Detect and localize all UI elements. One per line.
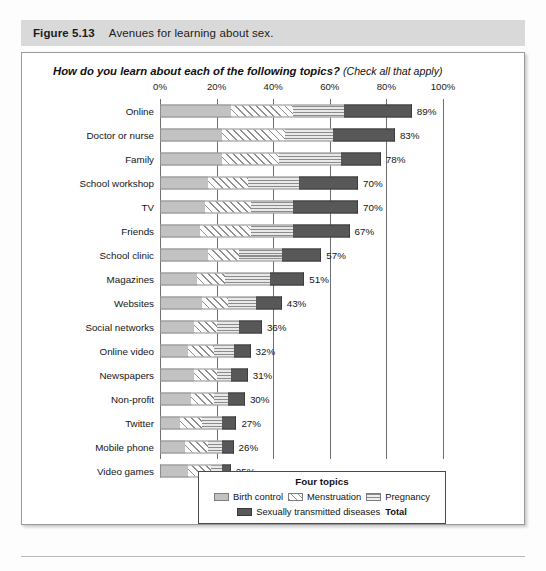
bar-segment-birth-control bbox=[160, 129, 222, 142]
legend-item-std: Sexually transmitted diseases bbox=[237, 505, 380, 518]
category-label-school-workshop: School workshop bbox=[79, 178, 154, 189]
figure-number: Figure 5.13 bbox=[33, 27, 95, 39]
bar-segment-menstruation bbox=[208, 249, 239, 262]
x-tick-0: 0% bbox=[153, 81, 167, 92]
category-label-doctor-or-nurse: Doctor or nurse bbox=[86, 130, 154, 141]
bar-segment-menstruation bbox=[185, 441, 208, 454]
x-tick-40: 40% bbox=[264, 81, 283, 92]
bar-row: Online video32% bbox=[160, 339, 443, 363]
bar-row: Family78% bbox=[160, 147, 443, 171]
stacked-bar bbox=[160, 105, 412, 118]
bar-row: Social networks36% bbox=[160, 315, 443, 339]
bar-segment-menstruation bbox=[191, 393, 214, 406]
bar-segment-pregnancy bbox=[248, 177, 299, 190]
bar-segment-menstruation bbox=[194, 369, 217, 382]
bar-segment-menstruation bbox=[200, 225, 251, 238]
bar-segment-pregnancy bbox=[214, 345, 234, 358]
stacked-bar bbox=[160, 321, 262, 334]
bar-segment-pregnancy bbox=[228, 297, 256, 310]
legend-item-pregnancy: Pregnancy bbox=[366, 490, 430, 503]
stacked-bar bbox=[160, 273, 304, 286]
bar-segment-menstruation bbox=[231, 105, 293, 118]
bar-segment-menstruation bbox=[222, 153, 279, 166]
bar-value-label: 43% bbox=[287, 298, 307, 309]
bar-segment-birth-control bbox=[160, 393, 191, 406]
stacked-bar bbox=[160, 129, 395, 142]
bar-segment-menstruation bbox=[222, 129, 284, 142]
category-label-mobile-phone: Mobile phone bbox=[95, 442, 154, 453]
stacked-bar bbox=[160, 177, 358, 190]
x-tick-20: 20% bbox=[207, 81, 226, 92]
bar-segment-birth-control bbox=[160, 297, 202, 310]
bar-segment-sexually-transmitted-diseases bbox=[231, 369, 248, 382]
bar-segment-sexually-transmitted-diseases bbox=[256, 297, 281, 310]
figure-page: Figure 5.13 Avenues for learning about s… bbox=[0, 0, 546, 571]
bar-segment-pregnancy bbox=[285, 129, 333, 142]
legend-title: Four topics bbox=[206, 476, 438, 487]
bar-segment-birth-control bbox=[160, 177, 208, 190]
legend-item-birth-control: Birth control bbox=[214, 490, 283, 503]
page-bottom-rule bbox=[21, 556, 525, 557]
bar-value-label: 70% bbox=[363, 202, 383, 213]
figure-caption-text: Avenues for learning about sex. bbox=[109, 27, 274, 39]
bar-segment-sexually-transmitted-diseases bbox=[222, 417, 236, 430]
x-axis-tick-labels: 0%20%40%60%80%100% bbox=[160, 81, 443, 95]
category-label-websites: Websites bbox=[114, 298, 154, 309]
bar-segment-menstruation bbox=[180, 417, 203, 430]
bar-segment-sexually-transmitted-diseases bbox=[333, 129, 395, 142]
bar-segment-menstruation bbox=[188, 345, 213, 358]
bar-value-label: 70% bbox=[363, 178, 383, 189]
bar-value-label: 78% bbox=[386, 154, 406, 165]
bar-value-label: 83% bbox=[400, 130, 420, 141]
stacked-bar bbox=[160, 345, 251, 358]
bar-segment-birth-control bbox=[160, 321, 194, 334]
chart-frame: How do you learn about each of the follo… bbox=[21, 52, 525, 525]
chart-title-sub: (Check all that apply) bbox=[343, 65, 443, 77]
bar-row: Magazines51% bbox=[160, 267, 443, 291]
bar-segment-birth-control bbox=[160, 417, 180, 430]
bar-segment-sexually-transmitted-diseases bbox=[270, 273, 304, 286]
bar-segment-sexually-transmitted-diseases bbox=[344, 105, 412, 118]
bar-segment-birth-control bbox=[160, 153, 222, 166]
chart-title-main: How do you learn about each of the follo… bbox=[53, 65, 340, 77]
x-tick-80: 80% bbox=[377, 81, 396, 92]
category-label-online-video: Online video bbox=[100, 346, 154, 357]
category-label-magazines: Magazines bbox=[107, 274, 154, 285]
legend-item-total: Total bbox=[385, 505, 407, 518]
legend-label-pregnancy: Pregnancy bbox=[385, 490, 430, 503]
bar-value-label: 89% bbox=[417, 106, 437, 117]
bar-segment-menstruation bbox=[197, 273, 225, 286]
bar-segment-pregnancy bbox=[239, 249, 281, 262]
legend-label-total: Total bbox=[385, 505, 407, 518]
bar-segment-birth-control bbox=[160, 225, 200, 238]
legend-row-1: Birth control Menstruation Pregnancy bbox=[206, 490, 438, 503]
bar-row: Non-profit30% bbox=[160, 387, 443, 411]
category-label-family: Family bbox=[125, 154, 154, 165]
bar-value-label: 27% bbox=[241, 418, 261, 429]
bar-segment-menstruation bbox=[202, 297, 227, 310]
bar-segment-birth-control bbox=[160, 105, 231, 118]
stacked-bar bbox=[160, 225, 350, 238]
bar-value-label: 31% bbox=[253, 370, 273, 381]
bar-segment-pregnancy bbox=[293, 105, 344, 118]
legend-row-2: Sexually transmitted diseases Total bbox=[206, 505, 438, 518]
legend-swatch-std bbox=[237, 508, 252, 516]
bar-segment-pregnancy bbox=[202, 417, 222, 430]
bar-row: Newspapers31% bbox=[160, 363, 443, 387]
bar-segment-pregnancy bbox=[217, 321, 240, 334]
bar-row: Online89% bbox=[160, 99, 443, 123]
category-label-newspapers: Newspapers bbox=[100, 370, 154, 381]
bar-segment-pregnancy bbox=[214, 393, 228, 406]
bar-segment-sexually-transmitted-diseases bbox=[222, 441, 233, 454]
category-label-online: Online bbox=[126, 106, 154, 117]
bar-segment-birth-control bbox=[160, 249, 208, 262]
bar-row: TV70% bbox=[160, 195, 443, 219]
bar-row: School workshop70% bbox=[160, 171, 443, 195]
bar-segment-pregnancy bbox=[251, 225, 293, 238]
bar-segment-menstruation bbox=[208, 177, 248, 190]
category-label-social-networks: Social networks bbox=[85, 322, 154, 333]
bar-row: Mobile phone26% bbox=[160, 435, 443, 459]
bar-segment-pregnancy bbox=[208, 441, 222, 454]
bar-segment-pregnancy bbox=[251, 201, 293, 214]
bar-segment-sexually-transmitted-diseases bbox=[293, 225, 350, 238]
